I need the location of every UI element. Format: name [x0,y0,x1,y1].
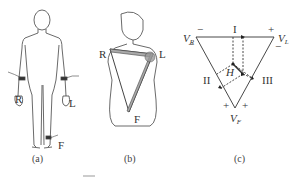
panel-a-body [8,10,79,148]
cut-caption-fragment [83,175,95,177]
label-b-l: L [159,48,166,60]
einthoven-diagram: R L F (a) R L F (b) I II III H VR VL VF … [0,0,298,179]
label-lead-2: II [203,74,211,86]
caption-b: (b) [124,153,136,165]
label-a-l: L [69,97,76,109]
sign-vl-minus: − [275,40,281,52]
label-lead-3: III [262,74,273,86]
panel-b-torso [108,12,157,126]
panel-c-triangle [196,37,274,108]
label-b-f: F [134,113,140,125]
einthoven-triangle-b [110,49,155,112]
sign-vr-minus-2: − [188,38,194,50]
caption-c: (c) [234,153,245,165]
label-vf: VF [230,112,242,126]
sign-vr-minus: − [197,23,203,35]
label-a-f: F [58,139,64,151]
label-a-r: R [15,93,23,105]
vector-markers [218,35,254,89]
label-b-r: R [99,48,107,60]
caption-a: (a) [32,153,43,165]
label-lead-1: I [233,23,237,35]
sign-vf-plus-left: + [223,99,229,111]
sign-vl-plus: + [268,23,274,35]
sign-vf-plus-right: + [242,99,248,111]
label-heart-vector: H [225,66,235,78]
